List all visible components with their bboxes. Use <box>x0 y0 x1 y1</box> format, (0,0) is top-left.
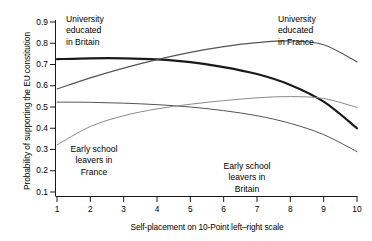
annotation-line: University <box>278 14 316 25</box>
series-line <box>57 97 357 145</box>
x-tick-label: 7 <box>246 204 268 214</box>
y-tick-label: 0.5 <box>22 102 48 112</box>
x-tick-label: 3 <box>113 204 135 214</box>
y-tick-label: 0.2 <box>22 165 48 175</box>
y-tick-label: 0.8 <box>22 38 48 48</box>
annotation-line: University <box>66 14 104 25</box>
data-series-group <box>57 41 357 152</box>
x-tick-label: 9 <box>313 204 335 214</box>
annotation-line: in France <box>278 37 316 48</box>
y-tick-label: 0.3 <box>22 144 48 154</box>
annotation-line: in Britain <box>66 37 104 48</box>
y-tick-marks <box>50 22 56 192</box>
annotation-univ-britain: Universityeducatedin Britain <box>66 14 104 48</box>
y-tick-label: 0.6 <box>22 80 48 90</box>
x-tick-label: 5 <box>179 204 201 214</box>
annotation-line: leavers in <box>62 155 126 166</box>
annotation-line: Britain <box>215 184 279 195</box>
annotation-line: Early school <box>215 161 279 172</box>
x-tick-label: 8 <box>279 204 301 214</box>
annotation-line: leavers in <box>215 172 279 183</box>
chart-figure: Probability of supporting the EU constit… <box>0 0 372 241</box>
x-tick-label: 10 <box>346 204 368 214</box>
annotation-line: educated <box>278 25 316 36</box>
x-axis-title: Self-placement on 10-Point left–right sc… <box>57 222 357 232</box>
y-tick-label: 0.7 <box>22 59 48 69</box>
x-tick-label: 1 <box>46 204 68 214</box>
annotation-esl-france: Early schoolleavers inFrance <box>62 144 126 178</box>
y-tick-label: 0.9 <box>22 17 48 27</box>
annotation-line: educated <box>66 25 104 36</box>
series-line <box>57 58 357 128</box>
annotation-esl-britain: Early schoolleavers inBritain <box>215 161 279 195</box>
x-tick-label: 2 <box>79 204 101 214</box>
y-tick-label: 0.1 <box>22 187 48 197</box>
annotation-univ-france: Universityeducatedin France <box>278 14 316 48</box>
x-tick-marks <box>57 197 357 203</box>
annotation-line: France <box>62 167 126 178</box>
x-tick-label: 6 <box>213 204 235 214</box>
annotation-line: Early school <box>62 144 126 155</box>
x-tick-label: 4 <box>146 204 168 214</box>
y-tick-label: 0.4 <box>22 123 48 133</box>
